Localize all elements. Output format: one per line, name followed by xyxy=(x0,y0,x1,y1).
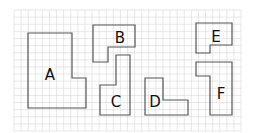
grid-diagram: ABCDEF xyxy=(0,0,255,133)
shape-label: E xyxy=(211,28,220,46)
shape-label: F xyxy=(217,85,226,103)
shape-label: C xyxy=(111,93,121,111)
shape-label: A xyxy=(45,66,56,84)
shape-outline xyxy=(28,33,86,108)
shapes-layer: ABCDEF xyxy=(28,23,232,115)
shape-label: B xyxy=(115,29,125,47)
shape-label: D xyxy=(149,93,161,111)
shape-a: A xyxy=(28,33,86,108)
shape-c: C xyxy=(100,55,130,115)
